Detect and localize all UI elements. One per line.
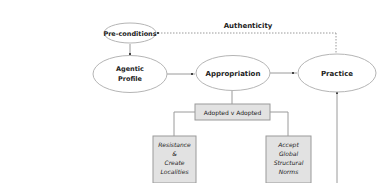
resistance-line2: & — [172, 150, 177, 157]
resistance-line4: Localities — [160, 168, 188, 175]
practice-feedback-edge — [336, 92, 338, 183]
adopted-box: Adopted v Adopted — [195, 104, 270, 120]
authenticity-edge — [157, 32, 336, 55]
practice-node: Practice — [298, 54, 376, 92]
resistance-box: Resistance & Create Localities — [153, 136, 196, 183]
agentic-profile-line1: Agentic — [116, 65, 144, 73]
preconditions-node: Pre-conditions — [103, 23, 156, 43]
accept-box: Accept Global Structural Norms — [266, 136, 311, 183]
profile-to-appropriation-edge — [167, 73, 195, 75]
resistance-line3: Create — [164, 159, 184, 166]
appropriation-to-practice-edge — [270, 72, 297, 74]
agentic-profile-node: Agentic Profile — [93, 56, 167, 93]
appropriation-node: Appropriation — [196, 56, 270, 91]
diagram-canvas: Authenticity Pre-conditions Agentic Prof… — [0, 0, 378, 183]
accept-line2: Global — [279, 150, 298, 157]
authenticity-label: Authenticity — [224, 22, 273, 30]
adopted-label: Adopted v Adopted — [204, 109, 262, 117]
accept-line3: Structural — [274, 159, 304, 166]
practice-label: Practice — [321, 70, 353, 78]
resistance-line1: Resistance — [158, 141, 191, 148]
preconditions-to-profile-edge — [129, 44, 131, 55]
agentic-profile-line2: Profile — [118, 75, 142, 83]
accept-line4: Norms — [279, 168, 299, 175]
accept-line1: Accept — [277, 141, 299, 149]
preconditions-label: Pre-conditions — [103, 30, 156, 38]
appropriation-label: Appropriation — [206, 70, 261, 78]
